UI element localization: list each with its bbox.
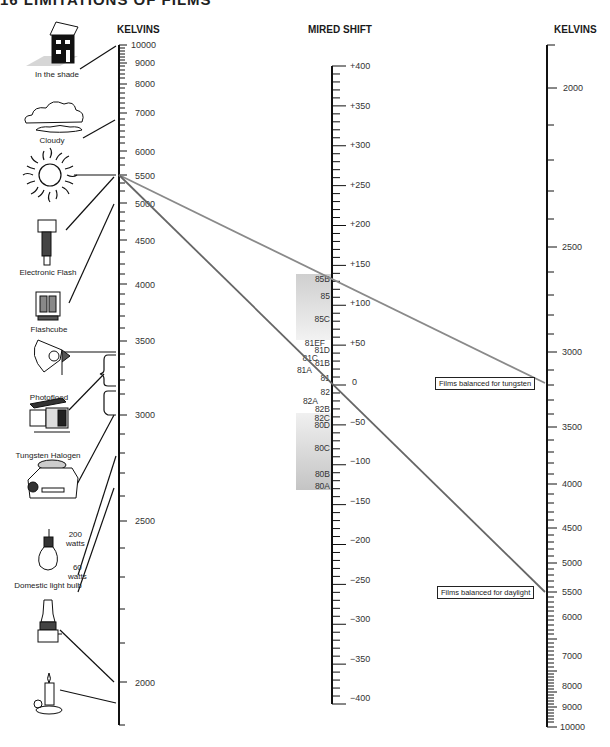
svg-text:4000: 4000: [562, 479, 582, 489]
left-kelvin-scale: 1000090008000700060005500500045004000350…: [119, 40, 156, 725]
source-label-photoflood: Photoflood: [14, 393, 84, 402]
film-tungsten-label: Films balanced for tungsten: [435, 377, 535, 390]
svg-text:−200: −200: [350, 535, 370, 545]
svg-text:81A: 81A: [297, 365, 312, 375]
svg-text:−300: −300: [350, 614, 370, 624]
svg-text:+200: +200: [350, 219, 370, 229]
svg-text:+250: +250: [350, 180, 370, 190]
source-label-shade: In the shade: [22, 70, 92, 79]
svg-text:80A: 80A: [315, 481, 330, 491]
svg-text:9000: 9000: [562, 702, 582, 712]
bulb-200-value: 200: [69, 530, 82, 539]
svg-text:+350: +350: [350, 101, 370, 111]
bulb-200-watts-label: 200watts: [66, 530, 85, 548]
bulb-60-watts-label: 60watts: [68, 563, 87, 581]
svg-text:+300: +300: [350, 140, 370, 150]
electronic-flash-icon: [38, 220, 56, 265]
svg-text:6000: 6000: [135, 147, 155, 157]
bulb-200-unit: watts: [66, 539, 85, 548]
svg-text:10000: 10000: [560, 722, 585, 732]
svg-text:4500: 4500: [562, 523, 582, 533]
candle-icon: [34, 673, 62, 714]
svg-text:0: 0: [352, 377, 357, 387]
svg-text:−50: −50: [350, 417, 365, 427]
sun-icon: [23, 148, 77, 202]
film-daylight-label: Films balanced for daylight: [437, 586, 534, 599]
tungsten-halogen-icon: [30, 398, 70, 432]
svg-text:4000: 4000: [135, 280, 155, 290]
svg-text:10000: 10000: [131, 40, 156, 50]
svg-text:5500: 5500: [562, 587, 582, 597]
svg-text:2500: 2500: [562, 242, 582, 252]
svg-text:5500: 5500: [135, 171, 155, 181]
svg-text:2000: 2000: [563, 83, 583, 93]
source-label-electronic-flash: Electronic Flash: [0, 268, 96, 277]
projector-icon: [28, 460, 78, 498]
svg-text:−350: −350: [350, 654, 370, 664]
source-label-flashcube: Flashcube: [14, 325, 84, 334]
mired-shift-scale: +400+350+300+250+200+150+100+500−50−100−…: [297, 61, 370, 704]
svg-text:80B: 80B: [315, 469, 330, 479]
svg-text:−250: −250: [350, 575, 370, 585]
svg-text:80C: 80C: [314, 443, 330, 453]
nomogram: 1000090008000700060005500500045004000350…: [0, 0, 610, 747]
right-kelvin-scale: 2000250030003500400045005000550060007000…: [547, 45, 585, 732]
photoflood-icon: [34, 340, 70, 375]
svg-text:+50: +50: [350, 338, 365, 348]
flashcube-icon: [36, 292, 60, 320]
light-bulb-icon: [39, 529, 58, 570]
bulb-60-unit: watts: [68, 572, 87, 581]
svg-text:85C: 85C: [314, 314, 330, 324]
svg-text:8000: 8000: [562, 681, 582, 691]
svg-text:7000: 7000: [562, 651, 582, 661]
source-label-tungsten-halogen: Tungsten Halogen: [0, 451, 96, 460]
svg-text:−400: −400: [350, 693, 370, 703]
svg-text:85: 85: [321, 291, 331, 301]
svg-text:81B: 81B: [315, 358, 330, 368]
svg-text:82: 82: [321, 387, 331, 397]
svg-text:3000: 3000: [562, 347, 582, 357]
svg-text:7000: 7000: [135, 108, 155, 118]
cloud-icon: [25, 102, 83, 133]
svg-text:3000: 3000: [135, 410, 155, 420]
svg-text:+400: +400: [350, 61, 370, 71]
svg-text:8000: 8000: [135, 79, 155, 89]
house-icon: [26, 22, 78, 66]
svg-text:9000: 9000: [135, 58, 155, 68]
svg-text:−100: −100: [350, 456, 370, 466]
source-label-cloudy: Cloudy: [22, 136, 82, 145]
svg-text:3500: 3500: [562, 422, 582, 432]
svg-text:5000: 5000: [562, 558, 582, 568]
svg-text:2000: 2000: [135, 678, 155, 688]
svg-text:+150: +150: [350, 259, 370, 269]
source-label-domestic-bulb: Domestic light bulb: [0, 581, 96, 590]
svg-text:80D: 80D: [314, 420, 330, 430]
svg-text:2500: 2500: [135, 516, 155, 526]
svg-text:3500: 3500: [135, 336, 155, 346]
svg-text:4500: 4500: [135, 236, 155, 246]
svg-text:+100: +100: [350, 298, 370, 308]
svg-text:6000: 6000: [562, 612, 582, 622]
bulb-60-value: 60: [73, 563, 82, 572]
oil-lamp-icon: [38, 600, 62, 642]
svg-text:−150: −150: [350, 496, 370, 506]
svg-text:85B: 85B: [315, 274, 330, 284]
